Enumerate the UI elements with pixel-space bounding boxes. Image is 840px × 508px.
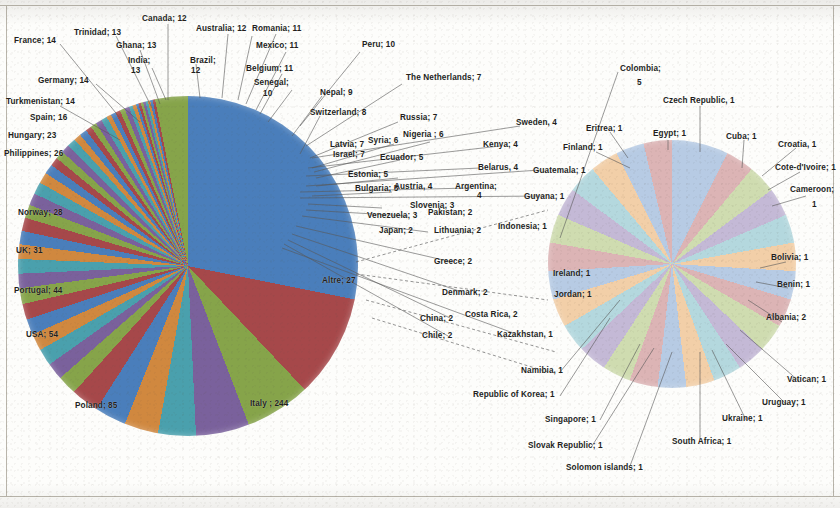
pie-slice-label: Ukraine; 1 (722, 414, 763, 424)
pie-slice-label: Peru; 10 (362, 40, 395, 50)
pie-slice-label: Pakistan; 2 (428, 208, 472, 218)
pie-slice-label: Sweden, 4 (516, 118, 557, 128)
pie-slice-label: Guatemala; 1 (533, 166, 586, 176)
pie-slice-label: 1 (812, 200, 817, 210)
pie-slice-label: Altre; 27 (322, 276, 356, 286)
pie-slice-label: Turkmenistan; 14 (6, 97, 75, 107)
pie-slice-label: Ecuador; 5 (380, 153, 423, 163)
pie-slice-label: Costa Rica, 2 (465, 310, 518, 320)
pie-slice-label: Vatican; 1 (787, 375, 826, 385)
pie-slice-label: 10 (263, 89, 272, 99)
pie-slice-label: Trinidad; 13 (74, 28, 121, 38)
pie-slice-label: Estonia; 5 (348, 170, 388, 180)
pie-slice-label: Italy ; 244 (250, 399, 288, 409)
pie-slice-label: Senegal; (254, 78, 289, 88)
pie-slice-label: Benin; 1 (777, 280, 810, 290)
pie-slice-label: UK; 31 (16, 246, 43, 256)
pie-slice-label: Ireland; 1 (553, 269, 590, 279)
pie-slice-label: Lithuania; 2 (434, 226, 481, 236)
pie-slice-label: Bolivia; 1 (771, 253, 808, 263)
pie-slice-label: Belarus, 4 (478, 163, 518, 173)
pie-slice-label: Uruguay; 1 (762, 398, 806, 408)
pie-slice-label: The Netherlands; 7 (406, 73, 482, 83)
pie-slice-label: South Africa; 1 (672, 437, 731, 447)
others-pie-chart (548, 140, 796, 388)
pie-slice-label: Australia; 12 (196, 24, 246, 34)
pie-slice-label: Israel; 7 (333, 150, 365, 160)
page-border-left (6, 5, 7, 497)
page-border-bottom (0, 496, 840, 497)
pie-slice-label: Belgium; 11 (246, 64, 293, 74)
leader-line (222, 34, 228, 98)
pie-slice-label: Indonesia; 1 (498, 222, 547, 232)
pie-slice-label: Cote-d'Ivoire; 1 (775, 163, 836, 173)
pie-slice-label: Hungary; 23 (8, 131, 56, 141)
pie-slice-label: Nigeria ; 6 (403, 130, 444, 140)
pie-slice-label: Venezuela; 3 (367, 211, 417, 221)
pie-slice-label: Japan; 2 (379, 226, 413, 236)
pie-slice-label: Germany; 14 (38, 76, 89, 86)
page-border-right (833, 5, 834, 497)
pie-slice-label: France; 14 (14, 36, 56, 46)
others-connector-line (366, 300, 556, 352)
pie-slice-label: Singapore; 1 (545, 415, 596, 425)
pie-slice-label: Guyana; 1 (524, 192, 565, 202)
pie-slice-label: Argentina; (455, 182, 497, 192)
pie-slice-label: Slovak Republic; 1 (528, 441, 603, 451)
pie-slice-label: Croatia, 1 (778, 140, 816, 150)
pie-slice-label: Ghana; 13 (116, 41, 157, 51)
pie-slice-label: Finland; 1 (563, 143, 603, 153)
pie-slice-label: 12 (191, 66, 200, 76)
pie-slice-label: 13 (131, 66, 140, 76)
pie-slice-label: Switzerland; 8 (310, 108, 366, 118)
pie-slice-label: Syria; 6 (368, 136, 398, 146)
main-pie-chart (18, 96, 358, 436)
pie-slice-label: Austria, 4 (394, 182, 432, 192)
pie-slice-label: Chile; 2 (422, 331, 452, 341)
pie-slice-label: Cuba; 1 (726, 132, 757, 142)
pie-slice-label: Spain; 16 (30, 113, 67, 123)
pie-slice-label: Egypt; 1 (653, 129, 686, 139)
pie-slice-label: Colombia; (620, 64, 661, 74)
pie-slice-label: Jordan; 1 (554, 290, 592, 300)
pie-slice-label: Solomon islands; 1 (566, 463, 643, 473)
pie-slice-label: Latvia; 7 (330, 140, 364, 150)
pie-slice-label: Russia; 7 (400, 113, 437, 123)
pie-slice-label: Cameroon; (790, 185, 834, 195)
pie-slice-label: Kenya; 4 (483, 140, 518, 150)
pie-slice-label: Greece; 2 (434, 257, 472, 267)
pie-slice-label: USA; 54 (26, 330, 58, 340)
pie-slice-label: Czech Republic, 1 (663, 96, 735, 106)
pie-slice-label: Albania; 2 (766, 313, 806, 323)
pie-slice-label: 5 (637, 78, 642, 88)
pie-slice-label: Republic of Korea; 1 (473, 390, 555, 400)
pie-slice-label: Kazakhstan, 1 (497, 330, 553, 340)
pie-slice-label: Namibia, 1 (521, 366, 563, 376)
pie-slice-label: India; (128, 56, 150, 66)
pie-slice-label: Mexico; 11 (256, 41, 298, 51)
pie-slice-label: Bulgaria; 5 (355, 184, 398, 194)
pie-slice-label: Brazil; (190, 56, 216, 66)
pie-slice-label: Poland; 85 (75, 401, 117, 411)
pie-slice-label: Nepal; 9 (320, 88, 353, 98)
pie-slice-label: China; 2 (420, 314, 453, 324)
pie-slice-label: Denmark; 2 (442, 288, 488, 298)
pie-slice-label: 4 (477, 191, 482, 201)
others-connector-line (372, 318, 548, 372)
pie-slice-label: Romania; 11 (252, 24, 301, 34)
pie-slice-label: Norway; 28 (18, 208, 63, 218)
pie-slice-label: Philippines; 26 (4, 149, 63, 159)
pie-slice-label: Eritrea; 1 (586, 124, 623, 134)
pie-slice-label: Canada; 12 (142, 14, 187, 24)
page-border-top (0, 5, 840, 6)
leader-line (152, 68, 166, 100)
scanned-figure-page: France; 14Trinidad; 13Canada; 12Australi… (0, 0, 840, 508)
pie-slice-label: Portugal; 44 (14, 286, 63, 296)
